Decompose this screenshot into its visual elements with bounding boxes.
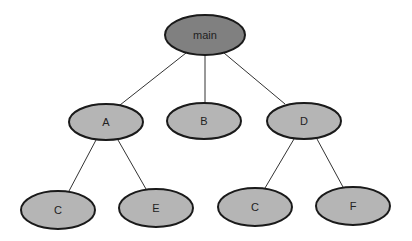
node-C1: C <box>21 191 95 229</box>
node-C2: C <box>218 188 292 226</box>
node-label: E <box>152 202 159 214</box>
nodes: mainABDCECF <box>21 15 390 229</box>
node-B: B <box>167 103 241 139</box>
node-F: F <box>316 187 390 225</box>
node-label: F <box>350 200 357 212</box>
node-label: C <box>54 204 62 216</box>
edge-main-D <box>224 53 285 104</box>
node-D: D <box>267 103 341 139</box>
node-label: A <box>102 116 110 128</box>
tree-diagram: mainABDCECF <box>0 0 412 241</box>
edge-A-C1 <box>69 140 96 191</box>
node-E: E <box>119 189 193 227</box>
node-label: C <box>251 201 259 213</box>
node-A: A <box>69 104 143 140</box>
node-label: D <box>300 115 308 127</box>
edge-A-E <box>118 140 146 189</box>
edge-D-C2 <box>265 139 294 188</box>
edge-D-F <box>317 139 343 187</box>
node-main: main <box>165 15 245 55</box>
node-label: main <box>193 29 217 41</box>
edge-main-A <box>120 53 186 105</box>
node-label: B <box>200 115 207 127</box>
